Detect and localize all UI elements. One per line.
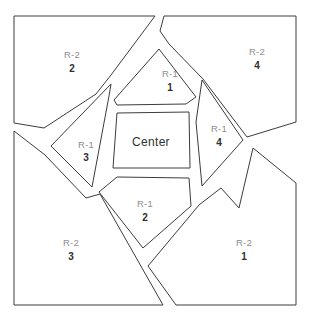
zoning-map-container: R-22R-24R-23R-21R-11R-13R-14R-12Center xyxy=(0,0,314,321)
parcel-zone-label-r2-4: R-2 xyxy=(249,46,265,57)
parcel-number-label-r1-2: 2 xyxy=(142,212,148,223)
parcel-number-label-r2-1: 1 xyxy=(241,251,247,262)
parcel-zone-label-r1-1: R-1 xyxy=(162,68,178,79)
parcel-number-label-r1-4: 4 xyxy=(216,137,222,148)
parcel-zone-label-r2-3: R-2 xyxy=(63,237,79,248)
parcel-number-label-r2-2: 2 xyxy=(69,63,75,74)
parcel-zone-label-r2-2: R-2 xyxy=(64,49,80,60)
parcel-zone-label-center: Center xyxy=(132,135,170,149)
parcel-zone-label-r1-3: R-1 xyxy=(78,139,94,150)
parcel-number-label-r2-3: 3 xyxy=(68,251,74,262)
parcel-number-label-r1-3: 3 xyxy=(83,152,89,163)
parcel-zone-label-r1-2: R-1 xyxy=(137,198,153,209)
parcel-r2-1[interactable] xyxy=(148,148,296,305)
parcel-map-svg: R-22R-24R-23R-21R-11R-13R-14R-12Center xyxy=(0,0,314,321)
parcel-number-label-r2-4: 4 xyxy=(254,60,260,71)
parcel-zone-label-r1-4: R-1 xyxy=(211,123,227,134)
parcel-number-label-r1-1: 1 xyxy=(167,82,173,93)
parcel-zone-label-r2-1: R-2 xyxy=(236,237,252,248)
